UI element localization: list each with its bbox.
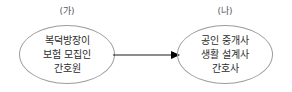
ellipse-na-line-1: 공인 중개사 [201, 34, 249, 47]
ellipse-ga-line-2: 보험 모집인 [43, 48, 91, 61]
group-label-ga: (가) [0, 6, 134, 17]
ellipse-na-line-2: 생활 설계사 [201, 48, 249, 61]
ellipse-na-line-3: 간호사 [212, 62, 239, 75]
group-label-na: (나) [158, 6, 292, 17]
ellipse-ga-line-1: 복덕방장이 [45, 34, 90, 47]
group-na: (나) 공인 중개사 생활 설계사 간호사 [158, 0, 292, 92]
ellipse-ga: 복덕방장이 보험 모집인 간호원 [19, 25, 115, 84]
ellipse-ga-line-3: 간호원 [54, 62, 81, 75]
ellipse-text-na: 공인 중개사 생활 설계사 간호사 [177, 25, 273, 84]
diagram-canvas: (가) 복덕방장이 보험 모집인 간호원 (나) 공인 중개사 생활 설계사 간… [0, 0, 292, 92]
group-ga: (가) 복덕방장이 보험 모집인 간호원 [0, 0, 134, 92]
ellipse-na: 공인 중개사 생활 설계사 간호사 [177, 25, 273, 84]
ellipse-text-ga: 복덕방장이 보험 모집인 간호원 [19, 25, 115, 84]
